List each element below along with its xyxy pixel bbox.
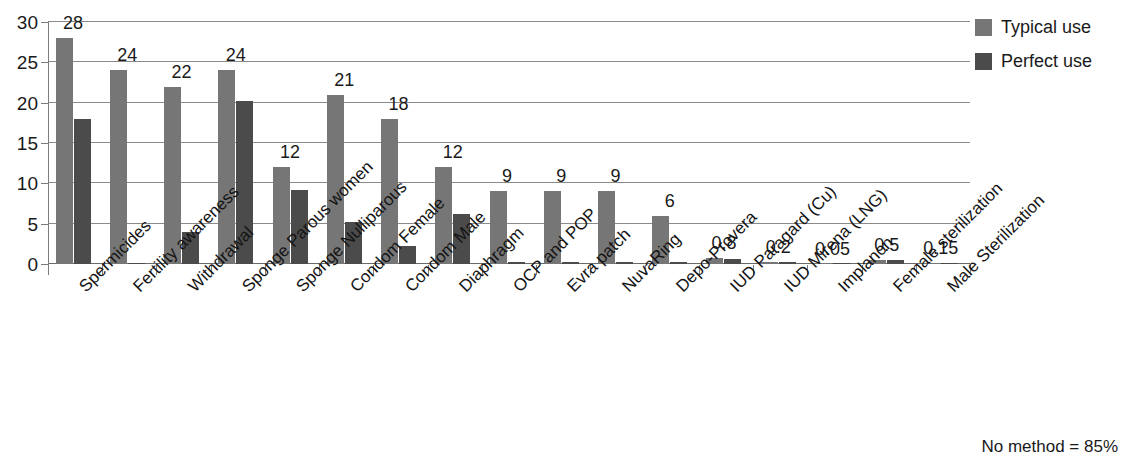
bar-value-label: 22 xyxy=(150,63,213,81)
bar-value-label: 18 xyxy=(367,95,430,113)
bar-perfect-use xyxy=(508,262,525,264)
y-axis-tick-label: 30 xyxy=(4,13,38,32)
y-axis-tick xyxy=(41,143,49,144)
y-axis-tick xyxy=(41,183,49,184)
y-axis-tick-label: 20 xyxy=(4,94,38,113)
bar-perfect-use xyxy=(941,263,958,265)
bar-value-label: 21 xyxy=(313,71,376,89)
legend: Typical use Perfect use xyxy=(975,10,1092,78)
bar-perfect-use xyxy=(670,262,687,264)
legend-label-typical-use: Typical use xyxy=(1001,18,1091,36)
y-axis-tick xyxy=(41,62,49,63)
y-axis-tick-label: 0 xyxy=(4,255,38,274)
bar-value-label: 9 xyxy=(584,167,647,185)
chart-page: 051015202530 282422241221181299960.80.20… xyxy=(0,0,1130,459)
bar-perfect-use xyxy=(616,262,633,264)
y-axis-tick xyxy=(41,103,49,104)
bar-perfect-use xyxy=(833,263,850,265)
legend-item-typical-use: Typical use xyxy=(975,10,1092,44)
bar-value-label: 24 xyxy=(204,46,267,64)
y-axis-tick-label: 15 xyxy=(4,134,38,153)
bar-perfect-use xyxy=(562,262,579,264)
bar-perfect-use xyxy=(779,262,796,264)
bar-typical-use xyxy=(56,38,73,264)
bar-perfect-use xyxy=(887,260,904,264)
legend-label-perfect-use: Perfect use xyxy=(1001,52,1092,70)
y-axis-tick-label: 10 xyxy=(4,174,38,193)
y-axis-tick-label: 5 xyxy=(4,215,38,234)
bar-perfect-use xyxy=(128,263,145,265)
legend-swatch-perfect-use xyxy=(975,53,992,70)
y-axis-tick xyxy=(41,224,49,225)
bar-value-label: 12 xyxy=(421,143,484,161)
gridline xyxy=(48,21,970,22)
legend-item-perfect-use: Perfect use xyxy=(975,44,1092,78)
y-axis-tick-label: 25 xyxy=(4,53,38,72)
bar-value-label: 28 xyxy=(42,14,105,32)
bar-value-label: 12 xyxy=(259,143,322,161)
gridline xyxy=(48,142,970,143)
bar-perfect-use xyxy=(724,259,741,264)
footnote-no-method: No method = 85% xyxy=(981,437,1118,457)
bar-value-label: 6 xyxy=(638,192,701,210)
legend-swatch-typical-use xyxy=(975,19,992,36)
gridline xyxy=(48,102,970,103)
bar-perfect-use xyxy=(74,119,91,264)
x-axis-tick xyxy=(48,265,49,275)
